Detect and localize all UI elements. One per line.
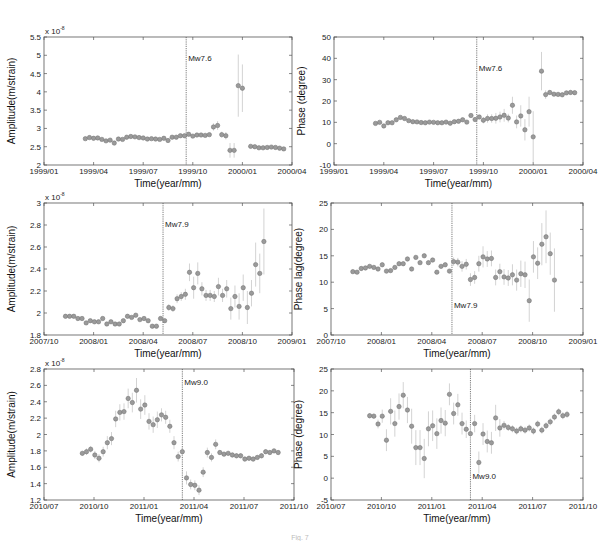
data-point [427, 120, 431, 124]
x-tick-label: 2010/10 [80, 502, 109, 511]
y-axis-label: Phase (degree) [296, 67, 307, 136]
data-point [92, 320, 96, 324]
data-point [265, 145, 269, 149]
data-point [372, 265, 376, 269]
data-point [531, 429, 535, 433]
y-tick-label: 3 [37, 199, 42, 208]
data-point [113, 322, 117, 326]
data-point [472, 275, 476, 279]
x-tick-label: 2011/04 [180, 502, 209, 511]
data-point [183, 292, 187, 296]
y-tick-label: 4 [37, 88, 42, 97]
data-point [211, 125, 215, 129]
y-axis-label: Phase (degree) [293, 400, 304, 469]
data-point [485, 116, 489, 120]
y-tick-label: 2.6 [30, 381, 42, 390]
data-point [76, 316, 80, 320]
data-point [573, 90, 577, 94]
data-point [234, 454, 238, 458]
data-point [158, 137, 162, 141]
y-tick-label: -10 [319, 161, 331, 170]
data-point [440, 121, 444, 125]
data-point [552, 415, 556, 419]
y-tick-label: 10 [319, 278, 328, 287]
y-tick-label: 2 [37, 431, 42, 440]
data-point [171, 306, 175, 310]
data-point [565, 412, 569, 416]
data-point [372, 414, 376, 418]
data-point [481, 118, 485, 122]
data-point [277, 146, 281, 150]
data-point [514, 278, 518, 282]
data-point [489, 441, 493, 445]
data-point [147, 419, 151, 423]
data-point [527, 298, 531, 302]
y-tick-label: 15 [319, 252, 328, 261]
data-point [247, 456, 251, 460]
chart-panel-1: 1999/011999/041999/071999/102000/012000/… [6, 25, 307, 189]
data-point [443, 263, 447, 267]
y-tick-label: 25 [319, 365, 328, 374]
data-point [540, 428, 544, 432]
x-tick-label: 2000/01 [228, 167, 257, 176]
data-point [561, 414, 565, 418]
data-point [134, 388, 138, 392]
data-point [439, 418, 443, 422]
data-point [498, 426, 502, 430]
y-tick-label: 1.2 [30, 496, 42, 505]
data-point [468, 277, 472, 281]
data-point [548, 420, 552, 424]
data-point [167, 305, 171, 309]
data-point [444, 120, 448, 124]
data-point [519, 114, 523, 118]
y-tick-label: 1.4 [30, 480, 42, 489]
data-point [510, 427, 514, 431]
x-tick-label: 1999/10 [469, 167, 498, 176]
data-point [253, 145, 257, 149]
data-point [259, 454, 263, 458]
data-point [506, 425, 510, 429]
data-point [96, 136, 100, 140]
data-point [493, 416, 497, 420]
x-axis-label: Time(year/mm) [134, 178, 201, 189]
data-point [489, 256, 493, 260]
data-point [405, 257, 409, 261]
data-point [377, 120, 381, 124]
y-tick-label: 2.5 [30, 143, 42, 152]
data-point [208, 293, 212, 297]
data-point [186, 132, 190, 136]
data-point [122, 409, 126, 413]
data-point [200, 287, 204, 291]
event-annotation: Mw7.6 [188, 54, 212, 63]
data-point [380, 414, 384, 418]
data-point [126, 396, 130, 400]
x-axis-label: Time(year/mm) [134, 348, 201, 359]
y-tick-label: 1.8 [30, 447, 42, 456]
data-point [401, 262, 405, 266]
x-tick-label: 2008/10 [228, 337, 257, 346]
y-tick-label: 3 [37, 124, 42, 133]
data-point [142, 316, 146, 320]
data-point [390, 121, 394, 125]
data-point [91, 136, 95, 140]
data-point [452, 119, 456, 123]
y-axis-label: Phase lag(degree) [293, 228, 304, 310]
y-tick-label: 30 [322, 76, 331, 85]
y-tick-label: 2.2 [30, 287, 42, 296]
y-axis-label: Amplitude(m/strain) [6, 58, 17, 145]
data-point [394, 118, 398, 122]
data-point [380, 263, 384, 267]
x-tick-label: 2010/10 [367, 502, 396, 511]
data-point [560, 93, 564, 97]
data-point [141, 136, 145, 140]
y-tick-label: 5 [37, 51, 42, 60]
y-axis-label: Amplitude(m/strain) [6, 226, 17, 313]
data-point [268, 450, 272, 454]
data-point [544, 424, 548, 428]
data-point [431, 120, 435, 124]
data-point [409, 267, 413, 271]
data-point [237, 304, 241, 308]
y-tick-label: 20 [322, 97, 331, 106]
data-point [137, 135, 141, 139]
data-point [469, 113, 473, 117]
